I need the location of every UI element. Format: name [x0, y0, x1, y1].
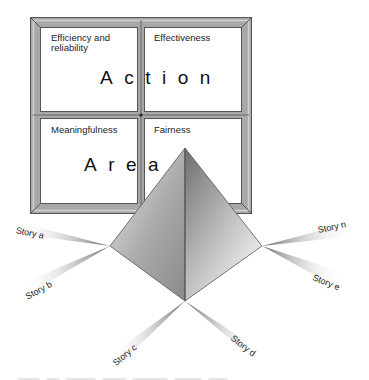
diagram-graphics: [0, 0, 369, 380]
caption-remnant: [18, 368, 288, 374]
quadrant-label-efficiency: Efficiency and reliability: [51, 33, 131, 53]
quadrant-label-fairness: Fairness: [154, 125, 190, 135]
diagram-canvas: Efficiency and reliability Effectiveness…: [0, 0, 369, 380]
row-title-area: Area: [84, 154, 170, 176]
quadrant-label-effectiveness: Effectiveness: [154, 33, 210, 43]
row-title-action: Action: [100, 67, 222, 89]
quadrant-label-meaningfulness: Meaningfulness: [51, 125, 118, 135]
